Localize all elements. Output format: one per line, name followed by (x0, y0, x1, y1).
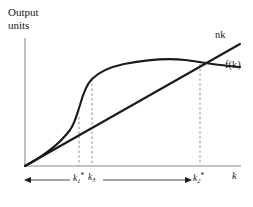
fk-curve-label: f(k) (225, 59, 241, 71)
x-axis-label: k (232, 170, 237, 182)
right-arrow (103, 177, 192, 183)
output-units-capital-diagram: Output units nk f(k) k k1* k3 k2* (0, 0, 253, 207)
fk-curve (25, 59, 240, 166)
y-axis-title: Output units (8, 6, 39, 31)
tick-k1-superscript: * (80, 171, 84, 180)
x-tick-label-k3: k3 (88, 172, 95, 183)
left-arrow (24, 177, 70, 183)
tick-k2-superscript: * (200, 171, 204, 180)
y-axis-title-line2: units (8, 19, 39, 32)
y-axis-title-line1: Output (8, 6, 39, 19)
tick-k3-subscript: 3 (92, 176, 95, 183)
x-tick-label-k1-star: k1* (73, 172, 84, 184)
x-tick-label-k2-star: k2* (193, 172, 204, 184)
nk-line-label: nk (215, 29, 226, 41)
